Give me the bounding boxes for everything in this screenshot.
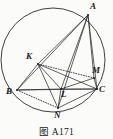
segment-KB: [17, 64, 38, 90]
vertex-label-l: L: [61, 90, 67, 99]
vertex-label-a: A: [90, 2, 96, 11]
geometry-diagram: [0, 0, 113, 122]
vertex-label-k: K: [26, 52, 32, 61]
figure-container: AKBMCLN 图 A171: [0, 0, 113, 139]
vertex-label-c: C: [99, 85, 105, 94]
segment-AL: [61, 15, 88, 89]
vertex-point-c: [96, 88, 98, 90]
caption-number: A171: [52, 127, 74, 137]
vertex-point-a: [87, 14, 89, 16]
vertex-label-b: B: [6, 87, 12, 96]
figure-caption: 图 A171: [0, 124, 113, 138]
segment-KL: [38, 64, 61, 89]
vertex-label-m: M: [92, 66, 100, 75]
solid-segments-layer: [16, 14, 98, 109]
caption-prefix: 图: [39, 127, 49, 137]
segment-KN: [38, 64, 58, 108]
vertex-label-n: N: [54, 111, 61, 120]
dotted-segments-layer: [17, 64, 94, 108]
segment-BN: [17, 90, 58, 108]
segment-AK: [38, 15, 88, 64]
